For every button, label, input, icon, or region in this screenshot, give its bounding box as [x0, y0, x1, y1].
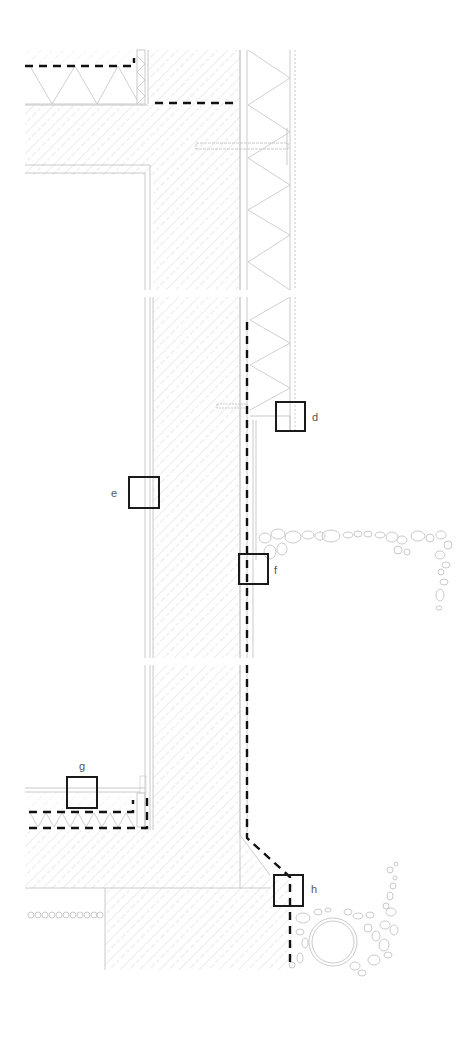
wall-section-drawing: d e f g h — [0, 0, 461, 1043]
drain-pipe — [309, 918, 357, 966]
callout-d[interactable]: d — [276, 402, 318, 431]
callout-e[interactable]: e — [111, 477, 159, 508]
callout-label-h: h — [311, 883, 317, 895]
drain-gravel — [289, 862, 398, 976]
callout-label-g: g — [79, 760, 85, 772]
upper-floor-slab — [25, 50, 240, 290]
gravel-surface — [259, 529, 452, 610]
drainage-beads — [28, 912, 103, 918]
lower-wall-and-footing — [25, 665, 293, 970]
middle-wall — [145, 297, 295, 658]
lower-floor-slab — [25, 776, 147, 828]
callout-label-f: f — [274, 564, 278, 576]
callout-label-e: e — [111, 487, 117, 499]
callout-label-d: d — [312, 411, 318, 423]
